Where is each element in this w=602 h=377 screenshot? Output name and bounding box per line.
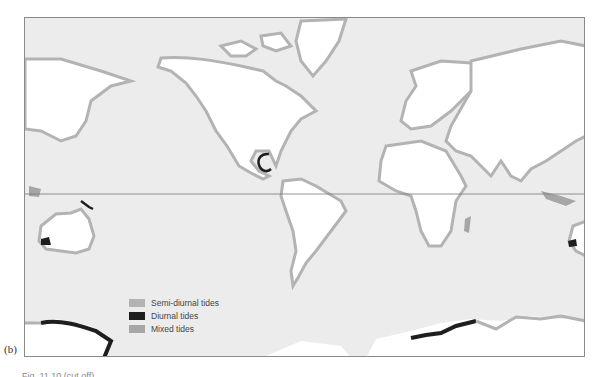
landmass-north-america bbox=[158, 58, 316, 179]
landmass-greenland bbox=[296, 19, 346, 76]
legend-label: Semi-diurnal tides bbox=[151, 298, 219, 308]
legend-item-semi-diurnal: Semi-diurnal tides bbox=[129, 296, 219, 309]
mixed-swatch bbox=[129, 325, 145, 333]
semi-diurnal-swatch bbox=[129, 299, 145, 307]
legend-label: Mixed tides bbox=[151, 324, 194, 334]
landmass-antarctica-central bbox=[261, 341, 351, 357]
landmass-africa bbox=[379, 141, 466, 246]
world-map bbox=[25, 18, 585, 357]
diurnal-swatch bbox=[129, 312, 145, 320]
diurnal-new-guinea bbox=[81, 201, 93, 209]
map-frame bbox=[24, 17, 585, 357]
legend-item-mixed: Mixed tides bbox=[129, 322, 219, 335]
landmass-siberia-west bbox=[25, 59, 131, 141]
diurnal-gulf-of-mexico bbox=[258, 154, 271, 171]
legend-label: Diurnal tides bbox=[151, 311, 198, 321]
legend-item-diurnal: Diurnal tides bbox=[129, 309, 219, 322]
map-legend: Semi-diurnal tides Diurnal tides Mixed t… bbox=[129, 296, 219, 335]
figure-caption-cutoff: Fig. 11.10 (cut off) bbox=[22, 372, 94, 377]
landmass-australia-east bbox=[569, 221, 585, 256]
landmass-arctic-islands bbox=[221, 33, 291, 56]
landmass-south-america bbox=[281, 179, 346, 286]
panel-label: (b) bbox=[4, 343, 17, 355]
landmass-madagascar bbox=[464, 216, 471, 233]
landmass-australia bbox=[39, 209, 94, 253]
